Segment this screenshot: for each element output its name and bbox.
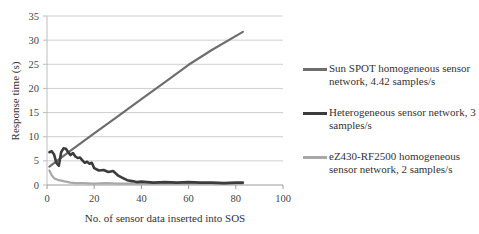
legend-label-sun-spot: Sun SPOT homogeneous sensor network, 4.4… [327, 62, 479, 88]
gridlines [47, 16, 283, 161]
y-tick-label: 15 [29, 107, 40, 118]
legend-swatch-ez430 [303, 156, 327, 159]
y-tick-labels: 05101520253035 [29, 11, 40, 191]
x-tick-label: 60 [183, 193, 194, 204]
x-tick-labels: 020406080100 [44, 193, 291, 204]
series-line-0 [49, 32, 243, 167]
legend-label-heterogeneous: Heterogeneous sensor network, 3 samples/… [327, 106, 479, 132]
x-axis-label: No. of sensor data inserted into SOS [85, 212, 245, 224]
y-tick-label: 35 [29, 11, 40, 22]
legend-swatch-heterogeneous [303, 112, 327, 115]
y-tick-label: 10 [29, 131, 40, 142]
axes [43, 16, 283, 189]
x-tick-label: 80 [231, 193, 242, 204]
y-tick-label: 0 [34, 180, 39, 191]
legend-swatch-sun-spot [303, 68, 327, 71]
legend-item-sun-spot: Sun SPOT homogeneous sensor network, 4.4… [303, 62, 479, 88]
x-tick-label: 100 [275, 193, 291, 204]
x-tick-label: 40 [136, 193, 147, 204]
legend-item-heterogeneous: Heterogeneous sensor network, 3 samples/… [303, 106, 479, 132]
y-tick-label: 20 [29, 83, 40, 94]
y-tick-label: 30 [29, 35, 40, 46]
series-line-1 [49, 148, 243, 183]
legend-item-ez430: eZ430-RF2500 homogeneous sensor network,… [303, 150, 479, 176]
y-tick-label: 25 [29, 59, 40, 70]
y-axis-label: Response time (s) [9, 61, 22, 140]
y-tick-label: 5 [34, 155, 39, 166]
x-tick-label: 20 [89, 193, 100, 204]
x-tick-label: 0 [44, 193, 49, 204]
legend-label-ez430: eZ430-RF2500 homogeneous sensor network,… [327, 150, 479, 176]
